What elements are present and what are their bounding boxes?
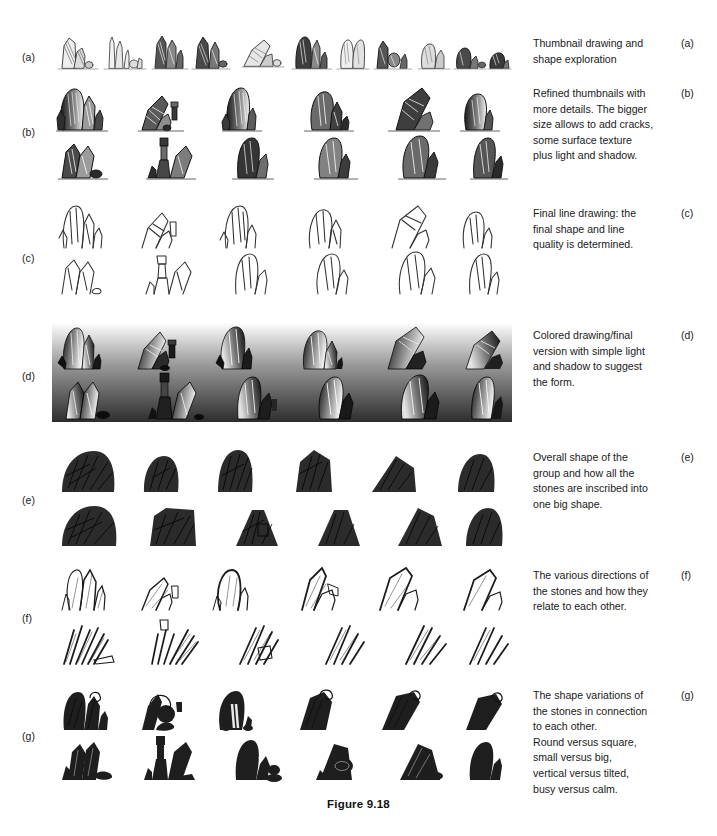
- panel-d-colored-drawing: [52, 323, 512, 422]
- caption-text-e: Overall shape of the group and how all t…: [533, 450, 675, 512]
- row-label-b: (b): [22, 126, 52, 138]
- caption-block-e: Overall shape of the group and how all t…: [533, 450, 717, 512]
- figure-page: (a): [0, 0, 717, 836]
- panel-a-thumbnail-exploration: [52, 30, 512, 78]
- panel-e-overall-shape: [52, 444, 512, 548]
- caption-text-f: The various directions of the stones and…: [533, 568, 675, 615]
- caption-text-a: Thumbnail drawing and shape exploration: [533, 36, 675, 67]
- row-label-a: (a): [22, 51, 52, 63]
- panel-b-artwork: [52, 82, 512, 184]
- row-label-c: (c): [22, 252, 52, 264]
- caption-tag-c: (c): [681, 206, 693, 222]
- caption-tag-g: (g): [681, 688, 694, 704]
- caption-block-a: Thumbnail drawing and shape exploration …: [533, 36, 717, 67]
- caption-tag-b: (b): [681, 86, 694, 102]
- panel-g-artwork: [52, 684, 512, 784]
- caption-text-g: The shape variations of the stones in co…: [533, 688, 675, 797]
- panel-f-artwork: [52, 562, 512, 666]
- panel-d-background: [52, 323, 512, 422]
- caption-block-f: The various directions of the stones and…: [533, 568, 717, 615]
- caption-text-d: Colored drawing/final version with simpl…: [533, 328, 675, 390]
- caption-block-g: The shape variations of the stones in co…: [533, 688, 717, 797]
- caption-block-b: Refined thumbnails with more details. Th…: [533, 86, 717, 164]
- caption-tag-e: (e): [681, 450, 694, 466]
- caption-block-c: Final line drawing: the final shape and …: [533, 206, 717, 253]
- caption-text-c: Final line drawing: the final shape and …: [533, 206, 675, 253]
- caption-text-b: Refined thumbnails with more details. Th…: [533, 86, 675, 164]
- panel-e-artwork: [52, 444, 512, 548]
- panel-g-shape-variations: [52, 684, 512, 784]
- caption-block-d: Colored drawing/final version with simpl…: [533, 328, 717, 390]
- figure-caption: Figure 9.18: [0, 798, 717, 810]
- row-label-f: (f): [22, 612, 52, 624]
- panel-f-directions: [52, 562, 512, 666]
- caption-tag-f: (f): [681, 568, 691, 584]
- panel-b-refined-thumbnails: [52, 82, 512, 184]
- panel-c-final-line-drawing: [52, 200, 512, 300]
- caption-tag-d: (d): [681, 328, 694, 344]
- panel-c-artwork: [52, 200, 512, 300]
- row-label-e: (e): [22, 494, 52, 506]
- panel-a-artwork: [52, 30, 512, 78]
- row-label-g: (g): [22, 730, 52, 742]
- row-label-d: (d): [22, 370, 52, 382]
- caption-tag-a: (a): [681, 36, 694, 52]
- panel-d-artwork: [52, 323, 512, 422]
